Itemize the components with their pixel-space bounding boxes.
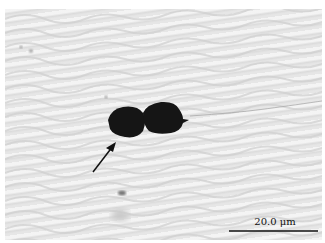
micrograph-content xyxy=(5,9,322,240)
scale-bar-label: 20.0 μm xyxy=(245,216,305,227)
speck xyxy=(29,49,33,53)
particle-right xyxy=(143,102,189,134)
blur-spot xyxy=(111,209,129,221)
speck xyxy=(118,191,126,196)
speck xyxy=(20,46,23,49)
arrow-icon xyxy=(93,142,116,172)
micrograph: 20.0 μm xyxy=(5,9,322,240)
crack-line xyxy=(190,101,322,116)
particle-left xyxy=(108,107,145,138)
speck xyxy=(105,96,108,99)
